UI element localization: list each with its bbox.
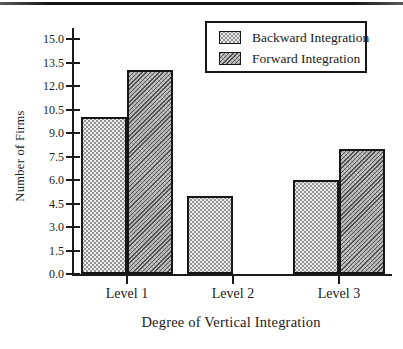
y-axis-tick xyxy=(66,156,80,158)
y-axis-tick-label: 0.0 xyxy=(22,266,64,282)
bar-level-1-forward-integration xyxy=(127,70,173,274)
y-axis-tick xyxy=(66,109,80,111)
legend: Backward Integration Forward Integration xyxy=(205,21,367,73)
y-axis-tick-label: 3.0 xyxy=(22,219,64,235)
category-label-level-3: Level 3 xyxy=(294,286,384,302)
y-axis-tick xyxy=(66,62,80,64)
legend-label-forward: Forward Integration xyxy=(252,51,360,67)
y-axis-tick xyxy=(66,250,80,252)
y-axis-tick-label: 13.5 xyxy=(22,55,64,71)
category-label-level-1: Level 1 xyxy=(82,286,172,302)
y-axis-tick xyxy=(66,132,80,134)
y-axis-tick-label: 9.0 xyxy=(22,125,64,141)
bar-level-1-backward-integration xyxy=(81,117,127,274)
y-axis-tick-label: 4.5 xyxy=(22,196,64,212)
y-axis-tick xyxy=(66,203,80,205)
y-axis-tick-label: 7.5 xyxy=(22,149,64,165)
figure: Number of Firms 0.01.53.04.56.07.59.010.… xyxy=(0,0,403,349)
y-axis-tick-label: 10.5 xyxy=(22,102,64,118)
forward-integration-swatch-icon xyxy=(219,52,241,65)
x-axis-tick xyxy=(126,276,128,284)
x-axis-tick xyxy=(232,276,234,284)
top-rule xyxy=(0,2,403,5)
y-axis-tick xyxy=(66,38,80,40)
y-axis-tick-label: 6.0 xyxy=(22,172,64,188)
backward-integration-swatch-icon xyxy=(219,31,241,44)
y-axis-tick xyxy=(66,179,80,181)
y-axis-tick-label: 1.5 xyxy=(22,243,64,259)
y-axis-tick-label: 12.0 xyxy=(22,78,64,94)
y-axis-tick xyxy=(66,85,80,87)
y-axis-tick xyxy=(66,273,80,275)
y-axis-tick xyxy=(66,226,80,228)
y-axis-tick-label: 15.0 xyxy=(22,31,64,47)
legend-row-backward: Backward Integration xyxy=(219,27,365,48)
x-axis-tick xyxy=(338,276,340,284)
bar-level-2-backward-integration xyxy=(187,196,233,274)
bar-level-3-forward-integration xyxy=(339,149,385,274)
x-axis-title: Degree of Vertical Integration xyxy=(72,314,390,331)
legend-row-forward: Forward Integration xyxy=(219,48,365,69)
bar-level-3-backward-integration xyxy=(293,180,339,274)
legend-label-backward: Backward Integration xyxy=(252,30,369,46)
category-label-level-2: Level 2 xyxy=(188,286,278,302)
